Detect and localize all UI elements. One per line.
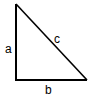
side-b-label: b <box>45 83 52 97</box>
side-c-hypotenuse-line <box>16 4 87 80</box>
side-c-label: c <box>54 32 60 46</box>
side-a-label: a <box>5 42 12 56</box>
right-triangle-diagram: a b c <box>0 0 95 100</box>
